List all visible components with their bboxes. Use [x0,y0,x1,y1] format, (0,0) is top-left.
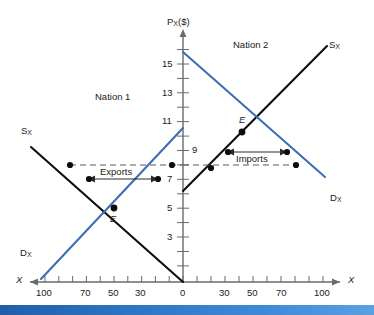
footer-bar [0,305,374,315]
x-axis [30,279,340,286]
y-axis-title-unit: ($) [178,16,190,27]
x-tick-right-70: 70 [276,288,287,298]
curve-label-d: D [20,247,27,258]
y-tick-label-7: 7 [167,174,172,184]
price-marker-9: 9 [192,145,197,155]
equilibrium-label-nation1: E [110,214,116,224]
marker-n1-supply-upper [67,162,73,168]
nation2-supply-curve [183,46,327,191]
x-tick-origin: 0 [180,288,185,298]
x-axis-label-right: X [348,275,354,285]
x-tick-left-70: 70 [80,288,91,298]
y-axis [180,29,187,282]
y-axis-title: PX($) [167,17,190,27]
curve-label-s2-sub: X [335,43,340,50]
curve-label-nation1-demand: DX [20,248,32,258]
y-tick-label-3: 3 [167,232,172,242]
figure-canvas: PX($) X X Nation 1 Nation 2 SX DX SX DX … [0,0,374,315]
y-tick-label-5: 5 [167,203,172,213]
x-tick-left-30: 30 [135,288,146,298]
nation1-demand-curve [41,128,183,279]
imports-label: Imports [234,154,270,164]
y-tick-label-13: 13 [162,88,173,98]
marker-n1-demand-lower [155,176,161,182]
marker-n1-demand-upper [169,162,175,168]
x-tick-right-100: 100 [314,288,330,298]
curve-label-nation2-supply: SX [329,40,340,50]
y-tick-label-15: 15 [162,59,173,69]
trade-diagram-svg [0,0,374,315]
x-tick-left-100: 100 [36,288,52,298]
marker-n2-demand-upper [284,149,290,155]
curve-label-d2: D [330,192,337,203]
curve-label-nation1-supply: SX [21,126,32,136]
x-axis-label-left: X [16,275,22,285]
marker-n1-supply-lower [86,176,92,182]
marker-n2-equilibrium [239,129,246,136]
x-tick-left-50: 50 [108,288,119,298]
marker-n1-equilibrium [111,205,118,212]
curve-label-d-sub: X [27,251,32,258]
curve-label-d2-sub: X [337,196,342,203]
panel-title-nation2: Nation 2 [233,40,268,50]
x-axis-ticks-right [197,276,323,282]
panel-title-nation1: Nation 1 [95,92,130,102]
curve-label-nation2-demand: DX [330,193,342,203]
x-axis-ticks-left [45,276,183,282]
x-tick-right-50: 50 [247,288,258,298]
y-tick-label-11: 11 [162,116,172,126]
exports-label: Exports [98,167,134,177]
marker-n2-supply-upper [225,149,231,155]
marker-n2-supply-lower [208,165,214,171]
x-tick-right-30: 30 [219,288,230,298]
marker-n2-demand-lower [293,162,299,168]
equilibrium-label-nation2: E [239,115,245,125]
curve-label-s-sub: X [27,129,32,136]
